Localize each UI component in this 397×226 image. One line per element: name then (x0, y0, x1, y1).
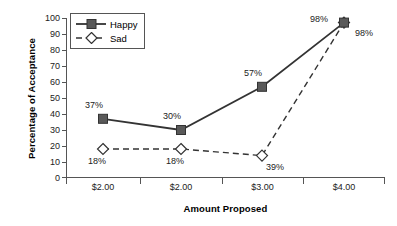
data-label-sad: 18% (166, 157, 184, 166)
data-label-sad: 18% (88, 157, 106, 166)
legend-item-happy: Happy (76, 17, 137, 31)
x-axis-title: Amount Proposed (66, 203, 385, 214)
legend: Happy Sad (70, 13, 145, 49)
x-tick-label: $3.00 (222, 183, 303, 192)
legend-item-sad: Sad (76, 31, 137, 45)
x-tick-label: $4.00 (303, 183, 385, 192)
chart-figure: Percentage of Acceptance 100 90 80 70 60… (0, 0, 397, 226)
y-tick-marks (62, 19, 66, 178)
data-label-happy: 57% (244, 69, 262, 78)
data-label-happy: 37% (85, 101, 103, 110)
data-label-sad: 98% (355, 29, 373, 38)
x-tick-label: $2.00 (66, 183, 140, 192)
plot-area (0, 0, 397, 226)
legend-label-sad: Sad (110, 33, 127, 44)
data-label-happy: 98% (310, 15, 328, 24)
data-label-sad: 39% (266, 163, 284, 172)
legend-swatch-happy-square-icon (76, 18, 106, 30)
legend-swatch-sad-diamond-icon (76, 32, 106, 44)
data-label-happy: 30% (163, 112, 181, 121)
x-tick-label: $2.00 (140, 183, 222, 192)
legend-label-happy: Happy (110, 19, 137, 30)
